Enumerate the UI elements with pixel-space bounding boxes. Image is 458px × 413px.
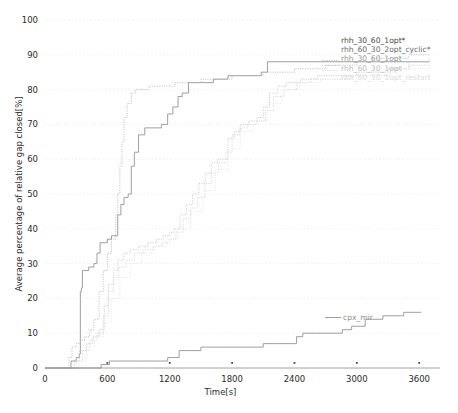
line-chart: 0102030405060708090100 06001200180024003… [0, 0, 458, 413]
series-label: rhh_30_60_1opt [341, 54, 402, 63]
x-axis-tick-marks [106, 362, 420, 364]
x-tick-label: 2400 [284, 374, 306, 384]
series-line [45, 65, 430, 368]
x-tick-label: 3600 [408, 374, 430, 384]
inline-series-labels: rhh_30_60_1opt*rhh_60_30_2opt_cyclic*rhh… [322, 36, 431, 322]
x-tick-label: 1800 [221, 374, 243, 384]
series-line [45, 62, 430, 368]
y-tick-label: 60 [27, 154, 38, 164]
y-tick-label: 90 [27, 50, 38, 60]
series-line [45, 65, 430, 368]
y-tick-label: 100 [22, 15, 38, 25]
x-tick-label: 3000 [346, 374, 368, 384]
y-axis-title: Average percentage of relative gap close… [14, 96, 24, 291]
x-tick-mark [356, 362, 358, 364]
x-tick-mark [106, 362, 108, 364]
series-label: rhh_60_30_1opt_restart [341, 73, 431, 82]
y-tick-label: 80 [27, 85, 38, 95]
series-label: rhh_60_30_1opt [341, 64, 402, 73]
y-tick-label: 10 [27, 328, 38, 338]
x-axis-title: Time[s] [204, 387, 237, 397]
figure-caption [18, 399, 438, 411]
y-axis-tick-labels: 0102030405060708090100 [22, 15, 38, 373]
series-label: rhh_30_60_1opt* [341, 36, 406, 45]
x-tick-label: 600 [99, 374, 115, 384]
x-tick-mark [231, 362, 233, 364]
y-tick-label: 70 [27, 119, 38, 129]
x-tick-label: 0 [42, 374, 47, 384]
cpx-mir-label: cpx_mir [343, 313, 374, 322]
x-tick-mark [418, 362, 420, 364]
y-tick-label: 50 [27, 189, 38, 199]
series-label: rhh_60_30_2opt_cyclic* [341, 45, 431, 54]
x-tick-mark [294, 362, 296, 364]
y-tick-label: 40 [27, 224, 38, 234]
x-tick-mark [169, 362, 171, 364]
figure-container: 0102030405060708090100 06001200180024003… [0, 0, 458, 413]
x-axis-tick-labels: 060012001800240030003600 [42, 374, 430, 384]
y-tick-label: 20 [27, 293, 38, 303]
y-tick-label: 0 [33, 363, 38, 373]
axis-titles: Time[s]Average percentage of relative ga… [14, 96, 236, 397]
x-tick-label: 1200 [159, 374, 181, 384]
y-tick-label: 30 [27, 259, 38, 269]
